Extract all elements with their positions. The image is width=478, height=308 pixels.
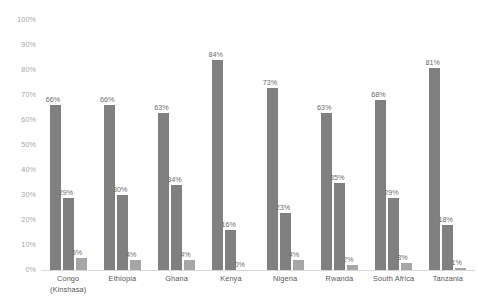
y-axis-tick-label: 30% bbox=[2, 191, 36, 199]
x-axis-category-label: Ghana bbox=[150, 274, 204, 285]
bar-group-bars: 66%30%4% bbox=[104, 20, 141, 270]
x-axis-category-label: Congo(Kinshasa) bbox=[41, 274, 95, 295]
bar-value-label: 4% bbox=[126, 251, 152, 259]
bar-column[interactable]: 29% bbox=[388, 20, 399, 270]
x-axis-category-label: Tanzania bbox=[421, 274, 475, 285]
bar-column[interactable]: 4% bbox=[130, 20, 141, 270]
bar[interactable] bbox=[401, 263, 412, 271]
bar-column[interactable]: 16% bbox=[225, 20, 236, 270]
y-axis-tick-label: 10% bbox=[2, 241, 36, 249]
bar-group: 73%23%4% bbox=[267, 20, 304, 270]
bar-group: 63%35%2% bbox=[321, 20, 358, 270]
y-axis-tick-label: 90% bbox=[2, 41, 36, 49]
y-axis-tick-label: 50% bbox=[2, 141, 36, 149]
bar-value-label: 2% bbox=[343, 256, 369, 264]
bar-group: 81%18%1% bbox=[429, 20, 466, 270]
bar-value-label: 4% bbox=[180, 251, 206, 259]
bar-column[interactable]: 29% bbox=[63, 20, 74, 270]
x-axis-category-label: Rwanda bbox=[312, 274, 366, 285]
bar[interactable] bbox=[375, 100, 386, 270]
bar-column[interactable]: 66% bbox=[50, 20, 61, 270]
bar-column[interactable]: 3% bbox=[401, 20, 412, 270]
bar-column[interactable]: 4% bbox=[184, 20, 195, 270]
bar-group-bars: 81%18%1% bbox=[429, 20, 466, 270]
x-axis-category-label-line: South Africa bbox=[367, 274, 421, 285]
x-axis-category-labels: Congo(Kinshasa)EthiopiaGhanaKenyaNigeria… bbox=[41, 274, 475, 304]
bar[interactable] bbox=[212, 60, 223, 270]
x-axis-category-label-line: Rwanda bbox=[312, 274, 366, 285]
bar-column[interactable]: 34% bbox=[171, 20, 182, 270]
bar-column[interactable]: 2% bbox=[347, 20, 358, 270]
x-axis-category-label-line: Kenya bbox=[204, 274, 258, 285]
bar-column[interactable]: 63% bbox=[321, 20, 332, 270]
bar-group: 68%29%3% bbox=[375, 20, 412, 270]
bar-group: 66%30%4% bbox=[104, 20, 141, 270]
y-axis-tick-label: 20% bbox=[2, 216, 36, 224]
y-axis-tick-label: 80% bbox=[2, 66, 36, 74]
bar-group: 66%29%5% bbox=[50, 20, 87, 270]
bar-column[interactable]: 84% bbox=[212, 20, 223, 270]
bar[interactable] bbox=[130, 260, 141, 270]
bar-column[interactable]: 81% bbox=[429, 20, 440, 270]
y-axis-tick-label: 0% bbox=[2, 266, 36, 274]
bar-group-bars: 68%29%3% bbox=[375, 20, 412, 270]
bar-column[interactable]: 35% bbox=[334, 20, 345, 270]
y-axis-tick-label: 100% bbox=[2, 16, 36, 24]
bar[interactable] bbox=[321, 113, 332, 271]
axis-baseline bbox=[41, 270, 475, 271]
bar-group-bars: 84%16%0% bbox=[212, 20, 249, 270]
bar-column[interactable]: 23% bbox=[280, 20, 291, 270]
y-axis-tick-label: 70% bbox=[2, 91, 36, 99]
bar[interactable] bbox=[293, 260, 304, 270]
bar[interactable] bbox=[347, 265, 358, 270]
bar[interactable] bbox=[280, 213, 291, 271]
bar-value-label: 5% bbox=[72, 249, 98, 257]
x-axis-category-label-line: Ghana bbox=[150, 274, 204, 285]
x-axis-category-label-line: Congo bbox=[41, 274, 95, 285]
x-axis-category-label: Nigeria bbox=[258, 274, 312, 285]
bar[interactable] bbox=[455, 268, 466, 271]
bar[interactable] bbox=[429, 68, 440, 271]
x-axis-category-label: South Africa bbox=[367, 274, 421, 285]
x-axis-category-label-line: Nigeria bbox=[258, 274, 312, 285]
bar-group-bars: 66%29%5% bbox=[50, 20, 87, 270]
x-axis-category-label-line: (Kinshasa) bbox=[41, 285, 95, 296]
bar-value-label: 3% bbox=[397, 254, 423, 262]
bar-column[interactable]: 63% bbox=[158, 20, 169, 270]
plot-area: 66%29%5%66%30%4%63%34%4%84%16%0%73%23%4%… bbox=[41, 20, 475, 270]
y-axis-tick-label: 40% bbox=[2, 166, 36, 174]
bar[interactable] bbox=[184, 260, 195, 270]
y-axis: 100%90%80%70%60%50%40%30%20%10%0% bbox=[0, 14, 40, 276]
bar-column[interactable]: 4% bbox=[293, 20, 304, 270]
x-axis-category-label-line: Ethiopia bbox=[95, 274, 149, 285]
bar[interactable] bbox=[63, 198, 74, 271]
bar[interactable] bbox=[76, 258, 87, 271]
bar-column[interactable]: 66% bbox=[104, 20, 115, 270]
x-axis-category-label: Ethiopia bbox=[95, 274, 149, 285]
bar-value-label: 1% bbox=[451, 259, 477, 267]
bar[interactable] bbox=[158, 113, 169, 271]
bar-column[interactable]: 5% bbox=[76, 20, 87, 270]
bar-value-label: 4% bbox=[289, 251, 315, 259]
bar-group-bars: 63%34%4% bbox=[158, 20, 195, 270]
bar-column[interactable]: 18% bbox=[442, 20, 453, 270]
bar-group-bars: 73%23%4% bbox=[267, 20, 304, 270]
bar[interactable] bbox=[267, 88, 278, 271]
bar-value-label: 0% bbox=[234, 261, 260, 269]
x-axis-category-label-line: Tanzania bbox=[421, 274, 475, 285]
y-axis-tick-label: 60% bbox=[2, 116, 36, 124]
bar-chart: 100%90%80%70%60%50%40%30%20%10%0% 66%29%… bbox=[0, 0, 478, 308]
bar-column[interactable]: 68% bbox=[375, 20, 386, 270]
bar-group-bars: 63%35%2% bbox=[321, 20, 358, 270]
bar-column[interactable]: 1% bbox=[455, 20, 466, 270]
bar-group: 63%34%4% bbox=[158, 20, 195, 270]
bar-group: 84%16%0% bbox=[212, 20, 249, 270]
bar-column[interactable]: 0% bbox=[238, 20, 249, 270]
bar-column[interactable]: 73% bbox=[267, 20, 278, 270]
bar-column[interactable]: 30% bbox=[117, 20, 128, 270]
x-axis-category-label: Kenya bbox=[204, 274, 258, 285]
